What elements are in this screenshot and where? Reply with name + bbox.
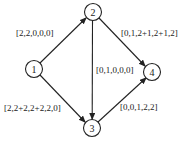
edge-label-2-3: [0,1,0,0,0] xyxy=(96,65,134,75)
graph-diagram: [2,2,0,0,0] [0,1,2+1,2+1,2] [0,1,0,0,0] … xyxy=(0,0,184,142)
edge-label-2-4: [0,1,2+1,2+1,2] xyxy=(121,28,178,38)
node-label-4: 4 xyxy=(150,67,155,78)
edge-label-1-3: [2,2+2,2+2,2,0] xyxy=(4,103,61,113)
node-label-1: 1 xyxy=(32,64,37,75)
node-2: 2 xyxy=(85,4,102,21)
edge-3-4 xyxy=(98,78,146,122)
node-1: 1 xyxy=(26,61,43,78)
node-label-3: 3 xyxy=(90,123,95,134)
edge-2-4 xyxy=(99,18,145,66)
edge-label-1-2: [2,2,0,0,0] xyxy=(16,28,54,38)
node-label-2: 2 xyxy=(91,7,96,18)
edge-label-3-4: [0,0,1,2,2] xyxy=(120,102,158,112)
edge-1-2 xyxy=(40,18,86,63)
edge-1-3 xyxy=(40,75,85,122)
node-3: 3 xyxy=(84,120,101,137)
node-4: 4 xyxy=(144,64,161,81)
